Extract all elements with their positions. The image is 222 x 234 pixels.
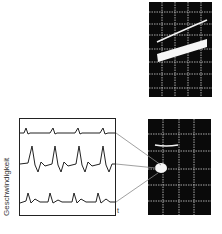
connector-bottom bbox=[116, 173, 158, 202]
trace-overlay bbox=[0, 0, 222, 234]
y-axis-label: Geschwindigkeit bbox=[2, 158, 11, 216]
x-axis-label: t bbox=[117, 207, 119, 214]
trace-top bbox=[20, 128, 115, 134]
connector-top bbox=[116, 133, 161, 165]
trace-middle bbox=[20, 146, 116, 172]
trace-bottom bbox=[20, 193, 116, 203]
connector-middle bbox=[116, 164, 156, 168]
